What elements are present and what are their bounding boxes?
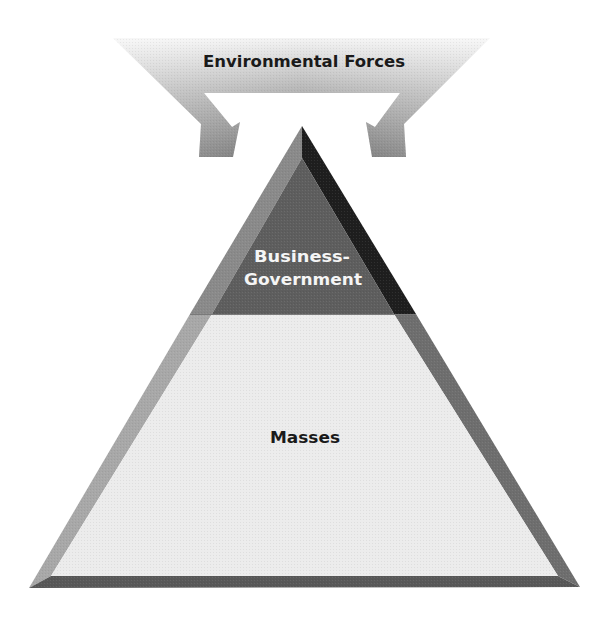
- environmental-forces-label: Environmental Forces: [203, 52, 405, 71]
- business-government-label-line1: Business-: [254, 247, 350, 266]
- pyramid-level-bottom: Masses: [29, 314, 580, 588]
- business-government-label-line2: Government: [244, 270, 362, 289]
- pyramid: Business- Government Masses: [29, 126, 580, 588]
- pyramid-diagram: Environmental Forces Business- Governmen…: [0, 0, 614, 625]
- masses-label: Masses: [270, 428, 340, 447]
